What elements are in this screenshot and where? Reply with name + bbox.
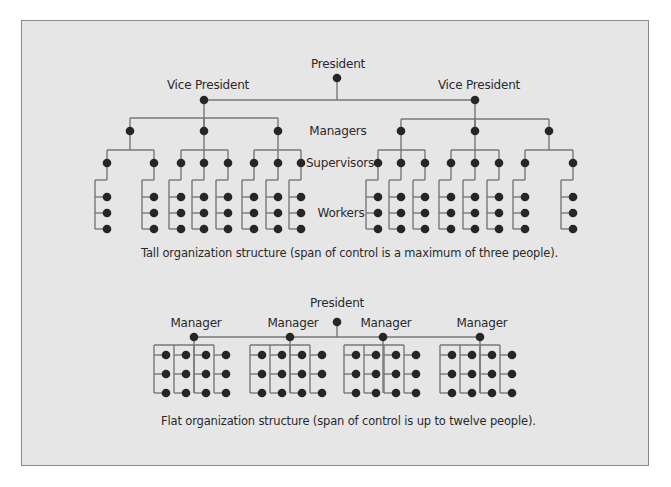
flat-worker-node — [318, 351, 327, 360]
flat-worker-node — [278, 351, 287, 360]
flat-worker-node — [298, 389, 307, 398]
flat-worker-node — [258, 389, 267, 398]
flat-worker-node — [222, 370, 231, 379]
flat-manager-label-3: Manager — [360, 316, 411, 330]
worker-node — [297, 209, 306, 218]
worker-node — [569, 225, 578, 234]
worker-node — [374, 193, 383, 202]
worker-node — [250, 193, 259, 202]
worker-node — [421, 209, 430, 218]
worker-node — [150, 193, 159, 202]
worker-node — [397, 209, 406, 218]
worker-node — [250, 225, 259, 234]
flat-manager-label-1: Manager — [170, 316, 221, 330]
worker-node — [447, 225, 456, 234]
worker-node — [274, 225, 283, 234]
tall-structure-caption: Tall organization structure (span of con… — [141, 246, 558, 260]
supervisor-node — [521, 159, 530, 168]
worker-node — [224, 193, 233, 202]
flat-worker-node — [372, 370, 381, 379]
flat-worker-node — [162, 389, 171, 398]
worker-node — [397, 193, 406, 202]
worker-node — [150, 209, 159, 218]
flat-worker-node — [392, 351, 401, 360]
supervisor-node — [374, 159, 383, 168]
worker-node — [521, 225, 530, 234]
worker-node — [569, 193, 578, 202]
supervisor-node — [200, 159, 209, 168]
supervisor-node — [224, 159, 233, 168]
flat-worker-node — [508, 389, 517, 398]
worker-node — [177, 225, 186, 234]
flat-worker-node — [202, 389, 211, 398]
flat-manager-node — [190, 333, 199, 342]
flat-worker-node — [392, 389, 401, 398]
flat-worker-node — [352, 389, 361, 398]
flat-worker-node — [222, 389, 231, 398]
worker-node — [471, 193, 480, 202]
worker-node — [471, 209, 480, 218]
supervisor-node — [569, 159, 578, 168]
flat-worker-node — [448, 389, 457, 398]
worker-node — [521, 209, 530, 218]
worker-node — [103, 225, 112, 234]
worker-node — [177, 193, 186, 202]
flat-worker-node — [182, 370, 191, 379]
manager-node — [545, 127, 554, 136]
flat-worker-node — [448, 370, 457, 379]
flat-worker-node — [278, 389, 287, 398]
worker-node — [200, 225, 209, 234]
worker-node — [374, 225, 383, 234]
flat-worker-node — [318, 389, 327, 398]
flat-worker-node — [392, 370, 401, 379]
worker-node — [177, 209, 186, 218]
flat-worker-node — [468, 370, 477, 379]
flat-worker-node — [468, 351, 477, 360]
vice-president-node — [471, 96, 480, 105]
flat-worker-node — [278, 370, 287, 379]
supervisor-node — [447, 159, 456, 168]
worker-node — [397, 225, 406, 234]
worker-node — [495, 225, 504, 234]
flat-worker-node — [412, 370, 421, 379]
worker-node — [421, 193, 430, 202]
tall-vice-president-left-label: Vice President — [167, 78, 249, 92]
flat-worker-node — [258, 370, 267, 379]
worker-node — [200, 209, 209, 218]
worker-node — [274, 193, 283, 202]
supervisor-node — [297, 159, 306, 168]
worker-node — [421, 225, 430, 234]
worker-node — [495, 193, 504, 202]
manager-node — [274, 127, 283, 136]
flat-structure-caption: Flat organization structure (span of con… — [161, 414, 536, 428]
worker-node — [103, 209, 112, 218]
flat-worker-node — [488, 370, 497, 379]
supervisor-node — [177, 159, 186, 168]
flat-worker-node — [372, 351, 381, 360]
flat-manager-label-4: Manager — [456, 316, 507, 330]
flat-worker-node — [352, 351, 361, 360]
supervisor-node — [250, 159, 259, 168]
flat-worker-node — [468, 389, 477, 398]
flat-manager-node — [379, 333, 388, 342]
worker-node — [447, 193, 456, 202]
flat-worker-node — [298, 370, 307, 379]
worker-node — [200, 193, 209, 202]
flat-manager-node — [476, 333, 485, 342]
supervisor-node — [495, 159, 504, 168]
flat-worker-node — [162, 370, 171, 379]
worker-node — [495, 209, 504, 218]
flat-worker-node — [222, 351, 231, 360]
flat-worker-node — [182, 351, 191, 360]
worker-node — [521, 193, 530, 202]
worker-node — [150, 225, 159, 234]
vice-president-node — [200, 96, 209, 105]
flat-president-node — [333, 318, 342, 327]
tall-vice-president-right-label: Vice President — [438, 78, 520, 92]
manager-node — [200, 127, 209, 136]
flat-worker-node — [412, 389, 421, 398]
worker-node — [297, 225, 306, 234]
managers-level-label: Managers — [309, 124, 366, 138]
flat-president-label: President — [310, 296, 364, 310]
supervisors-level-label: Supervisors — [306, 156, 374, 170]
